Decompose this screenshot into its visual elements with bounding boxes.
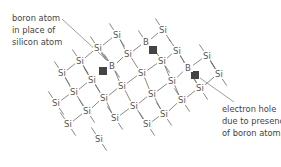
boron-atom: B <box>143 37 149 47</box>
boron-atom: B <box>185 63 191 73</box>
bond-line <box>157 84 167 92</box>
silicon-atom: Si <box>138 68 146 78</box>
silicon-atom: Si <box>168 76 176 86</box>
hole-label-line-3: of boron atom <box>222 127 281 139</box>
dangling-bond-stub <box>150 129 154 136</box>
silicon-atom: Si <box>143 119 151 129</box>
silicon-atom: Si <box>173 46 181 56</box>
electron-hole-square <box>191 71 199 79</box>
silicon-atom: Si <box>196 83 204 93</box>
bond-line <box>205 77 214 85</box>
silicon-atom: Si <box>113 30 121 40</box>
silicon-atom: Si <box>148 89 156 99</box>
silicon-atom: Si <box>70 87 78 97</box>
boron-label-line-3: silicon atom <box>12 36 62 48</box>
silicon-atom: Si <box>111 113 119 123</box>
boron-atom-label: boron atom in place of silicon atom <box>12 12 62 48</box>
silicon-atom: Si <box>83 106 91 116</box>
bond-line <box>117 57 123 63</box>
silicon-atom: Si <box>100 93 108 103</box>
dangling-bond-stub <box>71 129 75 136</box>
bond-line <box>120 109 129 116</box>
dangling-bond-stub <box>102 144 106 151</box>
electron-hole-label: electron hole due to presence of boron a… <box>222 103 281 139</box>
bond-line <box>139 97 147 103</box>
dangling-bond-stub <box>83 66 87 73</box>
silicon-atom: Si <box>52 98 60 108</box>
dangling-bond-stub <box>95 85 99 92</box>
bond-line <box>151 33 158 39</box>
silicon-atom: Si <box>58 68 66 78</box>
bond-line <box>67 64 75 70</box>
dangling-bond-stub <box>222 79 226 86</box>
bond-line <box>79 83 87 89</box>
bond-line <box>133 45 141 51</box>
boron-leader-line <box>62 19 110 63</box>
boron-atom: B <box>109 61 115 71</box>
bond-line <box>147 64 157 71</box>
boron-doped-silicon-lattice-diagram: SiSiSiBSiSiSiBSiSiSiSiSiBSiSiSiSiSiSiSiS… <box>0 0 281 167</box>
boron-label-line-2: in place of <box>12 24 62 36</box>
bond-line <box>127 76 137 84</box>
silicon-atom: Si <box>124 49 132 59</box>
bond-line <box>125 90 131 101</box>
dangling-bond-stub <box>167 119 171 126</box>
hole-label-line-1: electron hole <box>222 103 281 115</box>
silicon-atom: Si <box>130 101 138 111</box>
bond-line <box>177 71 184 78</box>
dangling-bond-stub <box>203 93 207 100</box>
bond-line <box>152 117 159 122</box>
bond-line <box>145 78 150 90</box>
hole-label-line-2: due to presence <box>222 115 281 127</box>
silicon-atom: Si <box>94 43 102 53</box>
dangling-bond-stub <box>185 105 189 112</box>
silicon-atom: Si <box>160 109 168 119</box>
silicon-atom: Si <box>64 119 72 129</box>
silicon-atom: Si <box>215 69 223 79</box>
bond-line <box>169 103 178 111</box>
silicon-atom: Si <box>118 81 126 91</box>
bond-line <box>61 95 69 101</box>
bond-line <box>109 89 117 95</box>
bond-line <box>85 51 93 58</box>
bond-line <box>187 91 195 97</box>
bond-line <box>193 59 202 66</box>
electron-hole-square <box>99 67 107 75</box>
silicon-atom: Si <box>76 56 84 66</box>
silicon-atom: Si <box>158 56 166 66</box>
silicon-atom: Si <box>88 75 96 85</box>
electron-hole-square <box>149 46 157 54</box>
dangling-bond-stub <box>90 116 94 123</box>
silicon-atom: Si <box>203 51 211 61</box>
silicon-atom: Si <box>178 95 186 105</box>
atoms: SiSiSiBSiSiSiBSiSiSiSiSiBSiSiSiSiSiSiSiS… <box>51 25 224 144</box>
hole-leader-line <box>200 78 234 102</box>
bond-line <box>92 101 99 108</box>
bond-line <box>73 114 82 121</box>
dangling-bond-stub <box>120 40 124 47</box>
dangling-bond-stub <box>118 123 122 130</box>
dangling-bond-stub <box>180 56 184 63</box>
silicon-atom: Si <box>159 25 167 35</box>
bond-line <box>103 38 112 45</box>
dangling-bond-stub <box>138 30 142 37</box>
dangling-bond-stub <box>65 78 69 85</box>
boron-label-line-1: boron atom <box>12 12 62 24</box>
bond-line <box>167 54 172 58</box>
silicon-atom: Si <box>95 134 103 144</box>
